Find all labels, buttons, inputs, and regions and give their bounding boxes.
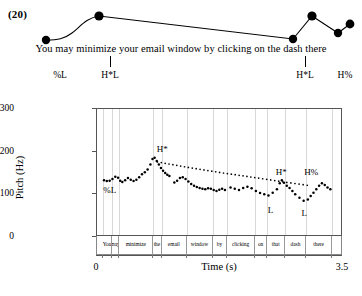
declination-point (262, 178, 264, 180)
word-label: may (112, 242, 120, 247)
f0-point (176, 179, 179, 182)
tone-label-initial: %L (53, 70, 67, 80)
x-tick-mark (152, 255, 153, 258)
f0-point (307, 198, 310, 201)
f0-point (224, 189, 227, 192)
declination-point (274, 180, 276, 182)
pitch-annotation: H% (304, 167, 318, 177)
word-tier: Youmayminimizetheemailwindowbyclickingon… (96, 236, 342, 255)
f0-point (210, 188, 213, 191)
x-tick-mark (305, 255, 306, 258)
schematic-dot (94, 11, 103, 20)
y-axis-label: Pitch (Hz) (14, 156, 25, 199)
word-cell: that (267, 236, 285, 254)
f0-point (207, 187, 210, 190)
word-cell: You (103, 236, 111, 254)
schematic-dot (289, 35, 297, 43)
f0-point (221, 188, 224, 191)
f0-point (132, 180, 135, 183)
f0-point (146, 168, 149, 171)
schematic-dot (346, 20, 355, 29)
word-label: the (154, 242, 161, 247)
f0-point (121, 181, 124, 184)
declination-point (215, 171, 217, 173)
f0-point (309, 195, 312, 198)
f0-point (278, 182, 281, 185)
declination-point (191, 167, 193, 169)
declination-point (294, 183, 296, 185)
declination-point (223, 172, 225, 174)
f0-point (242, 187, 245, 190)
x-tick-mark (161, 255, 162, 258)
declination-point (266, 178, 268, 180)
declination-point (302, 184, 304, 186)
declination-point (157, 161, 159, 163)
f0-point (276, 188, 279, 191)
f0-point (144, 171, 147, 174)
f0-point (238, 189, 241, 192)
f0-point (106, 180, 109, 183)
declination-point (176, 165, 178, 167)
f0-point (114, 176, 117, 179)
f0-point (263, 193, 266, 196)
word-label: by (217, 242, 222, 247)
declination-point (270, 179, 272, 181)
word-cell: dash (285, 236, 306, 254)
f0-point (321, 182, 324, 185)
f0-point (158, 163, 161, 166)
y-tick-label: 100 (0, 188, 14, 198)
word-cell: minimize (119, 236, 153, 254)
x-tick-mark (254, 255, 255, 258)
f0-point (138, 176, 141, 179)
schematic-contour (0, 0, 362, 48)
declination-point (298, 183, 300, 185)
tone-tier: %L H*L H*L H% (0, 56, 362, 86)
declination-point (242, 175, 244, 177)
f0-point (111, 178, 114, 181)
schematic-dot (307, 11, 316, 20)
declination-point (290, 182, 292, 184)
f0-point (173, 181, 176, 184)
plot-area: %LH*H*LH%L (96, 108, 342, 236)
declination-point (195, 168, 197, 170)
f0-point (212, 189, 215, 192)
x-tick-mark (118, 255, 119, 258)
f0-point (298, 196, 301, 199)
f0-point (246, 185, 249, 188)
pitch-annotation: H* (157, 144, 168, 154)
declination-point (211, 170, 213, 172)
declination-point (286, 182, 288, 184)
f0-point (234, 188, 237, 191)
x-tick-mark (226, 255, 227, 258)
word-cell: may (112, 236, 120, 254)
declination-point (219, 172, 221, 174)
f0-point (151, 158, 154, 161)
f0-point (162, 170, 165, 173)
word-label: on (258, 242, 263, 247)
x-tick-mark (284, 255, 285, 258)
f0-point (329, 188, 332, 191)
tone-tick (110, 56, 111, 67)
f0-point (255, 190, 257, 193)
schematic-dot (334, 29, 342, 37)
x-tick-mark (111, 255, 112, 258)
declination-point (164, 162, 166, 164)
f0-point (141, 173, 144, 176)
declination-point (172, 164, 174, 166)
word-cell: on (255, 236, 267, 254)
word-cell: email (162, 236, 187, 254)
declination-point (168, 163, 170, 165)
pitch-annotation: H* (276, 167, 287, 177)
f0-point (326, 186, 329, 189)
y-tick-label: 300 (0, 103, 14, 113)
f0-point (184, 178, 187, 181)
word-label: minimize (126, 242, 146, 247)
pitch-annotation: L (268, 205, 274, 215)
f0-point (215, 190, 218, 193)
word-label: window (191, 242, 208, 247)
f0-point (201, 188, 204, 191)
f0-point (196, 186, 199, 189)
declination-point (188, 167, 190, 169)
f0-point (302, 199, 305, 202)
tone-label-boundary: H% (338, 70, 353, 80)
